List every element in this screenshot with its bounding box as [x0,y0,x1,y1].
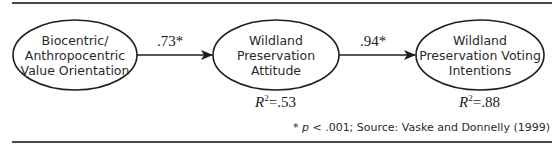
node-line: Intentions [449,63,512,78]
path-diagram: Biocentric/ Anthropocentric Value Orient… [0,0,554,147]
bottom-rule [12,141,552,143]
r-squared-value: =.53 [269,94,296,110]
r-squared-attitude: R2=.53 [255,93,296,111]
r-symbol: R [255,94,264,110]
path-coefficient-2: .94* [360,33,386,50]
node-line: Wildland [249,33,303,48]
node-line: Wildland [453,33,507,48]
node-line: Value Orientation [21,63,130,78]
node-line: Biocentric/ [42,33,109,48]
r-symbol: R [459,94,468,110]
r-squared-value: =.88 [473,94,500,110]
path-coefficient-1: .73* [157,33,183,50]
node-line: Anthropocentric [25,48,125,63]
node-line: Preservation [237,48,315,63]
node-value-orientation: Biocentric/ Anthropocentric Value Orient… [13,20,137,90]
node-line: Attitude [251,63,301,78]
r-squared-voting: R2=.88 [459,93,500,111]
node-line: Preservation Voting [419,48,541,63]
footnote: * p < .001; Source: Vaske and Donnelly (… [293,121,550,134]
footnote-text: < .001; Source: Vaske and Donnelly (1999… [309,121,550,134]
footnote-p: p [302,121,309,134]
footnote-star: * [293,121,302,134]
node-attitude: Wildland Preservation Attitude [213,20,339,90]
node-voting-intentions: Wildland Preservation Voting Intentions [416,20,544,90]
